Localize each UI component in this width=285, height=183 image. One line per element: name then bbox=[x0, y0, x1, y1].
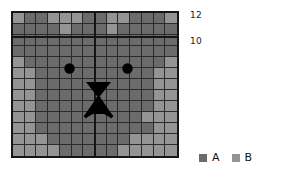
heatmap-cell[interactable] bbox=[13, 112, 25, 123]
heatmap-cell[interactable] bbox=[107, 101, 119, 112]
heatmap-cell[interactable] bbox=[107, 90, 119, 101]
heatmap-cell[interactable] bbox=[95, 112, 107, 123]
heatmap-cell[interactable] bbox=[13, 57, 25, 68]
heatmap-cell[interactable] bbox=[142, 134, 154, 145]
heatmap-cell[interactable] bbox=[60, 57, 72, 68]
heatmap-cell[interactable] bbox=[165, 24, 177, 35]
heatmap-cell[interactable] bbox=[13, 101, 25, 112]
heatmap-cell[interactable] bbox=[48, 68, 60, 79]
heatmap-cell[interactable] bbox=[48, 101, 60, 112]
heatmap-cell[interactable] bbox=[25, 101, 37, 112]
heatmap-cell[interactable] bbox=[60, 134, 72, 145]
heatmap-cell[interactable] bbox=[142, 13, 154, 24]
heatmap-cell[interactable] bbox=[107, 123, 119, 134]
heatmap-cell[interactable] bbox=[118, 145, 130, 156]
heatmap-cell[interactable] bbox=[118, 101, 130, 112]
heatmap-cell[interactable] bbox=[36, 134, 48, 145]
heatmap-cell[interactable] bbox=[165, 90, 177, 101]
heatmap-cell[interactable] bbox=[154, 123, 166, 134]
heatmap-cell[interactable] bbox=[107, 112, 119, 123]
heatmap-cell[interactable] bbox=[165, 46, 177, 57]
heatmap-cell[interactable] bbox=[95, 101, 107, 112]
heatmap-cell[interactable] bbox=[60, 145, 72, 156]
heatmap-cell[interactable] bbox=[130, 68, 142, 79]
heatmap-cell[interactable] bbox=[130, 123, 142, 134]
heatmap-cell[interactable] bbox=[72, 145, 84, 156]
heatmap-cell[interactable] bbox=[72, 79, 84, 90]
heatmap-cell[interactable] bbox=[60, 112, 72, 123]
heatmap-cell[interactable] bbox=[72, 68, 84, 79]
heatmap-cell[interactable] bbox=[72, 101, 84, 112]
heatmap-cell[interactable] bbox=[165, 57, 177, 68]
heatmap-cell[interactable] bbox=[72, 13, 84, 24]
heatmap-cell[interactable] bbox=[48, 123, 60, 134]
heatmap-cell[interactable] bbox=[165, 112, 177, 123]
heatmap-cell[interactable] bbox=[118, 57, 130, 68]
heatmap-cell[interactable] bbox=[36, 57, 48, 68]
heatmap-cell[interactable] bbox=[95, 79, 107, 90]
heatmap-cell[interactable] bbox=[48, 46, 60, 57]
heatmap-cell[interactable] bbox=[142, 123, 154, 134]
heatmap-cell[interactable] bbox=[142, 68, 154, 79]
heatmap-cell[interactable] bbox=[154, 145, 166, 156]
heatmap-cell[interactable] bbox=[25, 134, 37, 145]
heatmap-cell[interactable] bbox=[142, 145, 154, 156]
heatmap-cell[interactable] bbox=[154, 101, 166, 112]
heatmap-cell[interactable] bbox=[142, 46, 154, 57]
heatmap-cell[interactable] bbox=[72, 46, 84, 57]
heatmap-cell[interactable] bbox=[48, 57, 60, 68]
heatmap-cell[interactable] bbox=[165, 68, 177, 79]
heatmap-cell[interactable] bbox=[165, 79, 177, 90]
heatmap-cell[interactable] bbox=[13, 134, 25, 145]
heatmap-cell[interactable] bbox=[13, 79, 25, 90]
legend-item-b[interactable]: B bbox=[232, 152, 253, 163]
heatmap-cell[interactable] bbox=[142, 24, 154, 35]
heatmap-cell[interactable] bbox=[36, 46, 48, 57]
heatmap-cell[interactable] bbox=[165, 145, 177, 156]
heatmap-cell[interactable] bbox=[48, 145, 60, 156]
heatmap-cell[interactable] bbox=[25, 46, 37, 57]
heatmap-cell[interactable] bbox=[118, 68, 130, 79]
heatmap-cell[interactable] bbox=[72, 57, 84, 68]
heatmap-cell[interactable] bbox=[36, 101, 48, 112]
heatmap-cell[interactable] bbox=[154, 112, 166, 123]
heatmap-cell[interactable] bbox=[95, 145, 107, 156]
heatmap-cell[interactable] bbox=[130, 145, 142, 156]
heatmap-cell[interactable] bbox=[25, 90, 37, 101]
heatmap-cell[interactable] bbox=[107, 46, 119, 57]
heatmap-cell[interactable] bbox=[72, 123, 84, 134]
heatmap-cell[interactable] bbox=[154, 134, 166, 145]
heatmap-cell[interactable] bbox=[60, 79, 72, 90]
heatmap-cell[interactable] bbox=[107, 68, 119, 79]
heatmap-cell[interactable] bbox=[142, 79, 154, 90]
heatmap-cell[interactable] bbox=[95, 90, 107, 101]
heatmap-cell[interactable] bbox=[60, 90, 72, 101]
heatmap-cell[interactable] bbox=[142, 101, 154, 112]
heatmap-cell[interactable] bbox=[165, 134, 177, 145]
heatmap-cell[interactable] bbox=[130, 112, 142, 123]
heatmap-cell[interactable] bbox=[130, 57, 142, 68]
heatmap-cell[interactable] bbox=[118, 46, 130, 57]
heatmap-cell[interactable] bbox=[107, 145, 119, 156]
heatmap-cell[interactable] bbox=[118, 112, 130, 123]
heatmap-cell[interactable] bbox=[13, 68, 25, 79]
heatmap-cell[interactable] bbox=[13, 13, 25, 24]
heatmap-cell[interactable] bbox=[154, 79, 166, 90]
heatmap-cell[interactable] bbox=[154, 90, 166, 101]
heatmap-cell[interactable] bbox=[48, 79, 60, 90]
heatmap-cell[interactable] bbox=[48, 13, 60, 24]
heatmap-cell[interactable] bbox=[130, 79, 142, 90]
heatmap-cell[interactable] bbox=[130, 46, 142, 57]
heatmap-cell[interactable] bbox=[25, 68, 37, 79]
heatmap-cell[interactable] bbox=[72, 134, 84, 145]
heatmap-cell[interactable] bbox=[48, 24, 60, 35]
heatmap-cell[interactable] bbox=[72, 90, 84, 101]
heatmap-cell[interactable] bbox=[95, 123, 107, 134]
heatmap-cell[interactable] bbox=[142, 57, 154, 68]
heatmap-cell[interactable] bbox=[48, 112, 60, 123]
heatmap-cell[interactable] bbox=[60, 68, 72, 79]
heatmap-cell[interactable] bbox=[36, 24, 48, 35]
heatmap-cell[interactable] bbox=[130, 24, 142, 35]
heatmap-cell[interactable] bbox=[142, 90, 154, 101]
heatmap-cell[interactable] bbox=[107, 79, 119, 90]
